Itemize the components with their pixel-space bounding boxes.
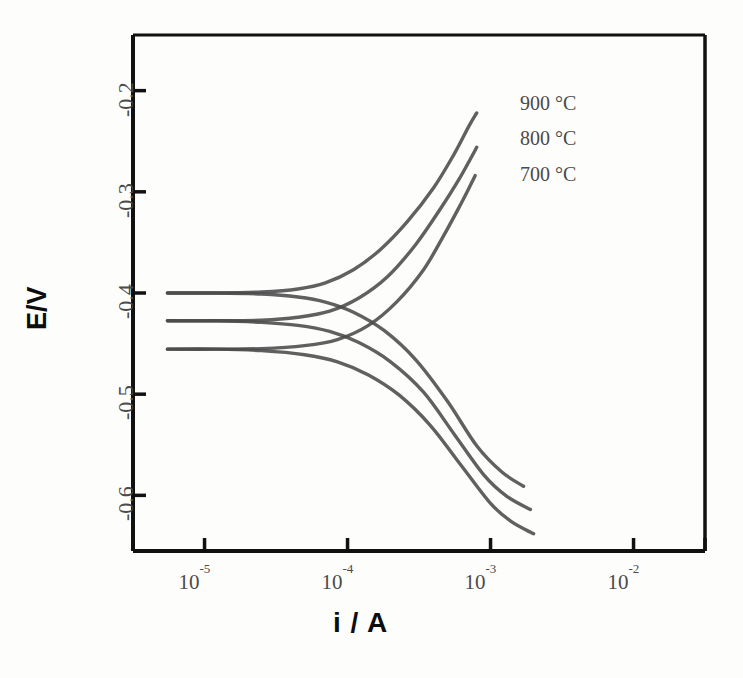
- x-tick-mantissa: 10: [465, 570, 486, 594]
- x-tick-mantissa: 10: [179, 570, 200, 594]
- y-tick-label: -0.5: [113, 385, 139, 420]
- x-tick-label: 10-2: [608, 569, 640, 595]
- curve-series-group: [167, 113, 533, 534]
- x-tick-mantissa: 10: [322, 570, 343, 594]
- x-tick-exponent: -3: [486, 561, 497, 576]
- x-tick-exponent: -5: [200, 561, 211, 576]
- x-tick-exponent: -4: [343, 561, 354, 576]
- series-label-800c: 800 °C: [520, 127, 576, 150]
- figure-canvas: -0.2 -0.3 -0.4 -0.5 -0.6 10-5 10-4 10-3 …: [0, 0, 743, 678]
- y-tick-label: -0.3: [113, 183, 139, 218]
- series-label-700c: 700 °C: [520, 163, 576, 186]
- y-axis-title: E/V: [22, 286, 53, 330]
- x-tick-label: 10-4: [322, 569, 354, 595]
- x-tick-exponent: -2: [629, 561, 640, 576]
- y-tick-label: -0.6: [113, 487, 139, 522]
- y-tick-label: -0.4: [113, 284, 139, 319]
- x-axis-title: i / A: [333, 607, 388, 639]
- x-tick-label: 10-3: [465, 569, 497, 595]
- x-tick-label: 10-5: [179, 569, 211, 595]
- x-tick-mantissa: 10: [608, 570, 629, 594]
- y-tick-label: -0.2: [113, 82, 139, 117]
- series-label-900c: 900 °C: [520, 92, 576, 115]
